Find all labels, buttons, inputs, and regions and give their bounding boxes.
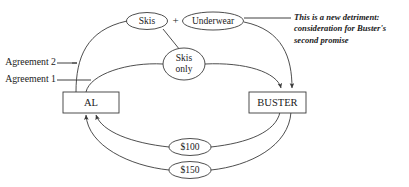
agreement-label-2: Agreement 2 <box>5 56 56 67</box>
consideration-oval-money-150-label: $150 <box>181 165 200 175</box>
annotation-line-1: This is a new detriment: <box>294 12 380 22</box>
diagram-svg: AL BUSTER Skis + Underwear Skis only $10… <box>0 0 409 187</box>
diagram-canvas: AL BUSTER Skis + Underwear Skis only $10… <box>0 0 409 187</box>
edge-buster-to-money-150 <box>211 112 291 170</box>
edge-al-to-skis <box>76 21 127 92</box>
edge-skis-to-skis-only <box>163 29 180 50</box>
annotation-line-2: consideration for Buster's <box>294 23 387 33</box>
edge-al-to-skis-only <box>86 64 163 92</box>
party-box-buster-label: BUSTER <box>257 97 297 108</box>
consideration-oval-skis-label: Skis <box>139 16 156 26</box>
annotation-line-3: second promise <box>293 35 349 45</box>
edge-money-150-to-al <box>86 115 169 170</box>
edge-buster-to-money-100 <box>211 112 280 147</box>
party-box-al-label: AL <box>84 97 98 108</box>
agreement-label-1: Agreement 1 <box>5 73 56 84</box>
consideration-oval-skis-only-label-line2: only <box>176 64 193 74</box>
edge-money-100-to-al <box>96 115 169 147</box>
consideration-oval-skis-only-label-line1: Skis <box>176 53 193 63</box>
consideration-oval-money-100-label: $100 <box>181 142 200 152</box>
consideration-oval-underwear-label: Underwear <box>192 16 235 26</box>
edge-skis-only-to-buster <box>205 64 281 88</box>
edge-underwear-to-buster <box>244 22 292 88</box>
plus-operator: + <box>172 14 178 26</box>
